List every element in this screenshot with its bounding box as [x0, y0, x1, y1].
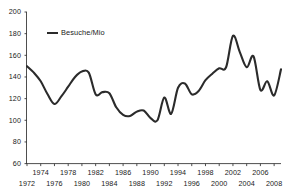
x-tick-label-1976: 1976 — [41, 180, 67, 187]
x-tick-label-1974: 1974 — [28, 169, 54, 176]
y-tick-label-140: 140 — [1, 73, 21, 80]
x-tick-label-1978: 1978 — [55, 169, 81, 176]
y-tick-label-200: 200 — [1, 8, 21, 15]
y-tick-label-100: 100 — [1, 117, 21, 124]
x-tick-label-1996: 1996 — [179, 180, 205, 187]
x-tick-label-2002: 2002 — [220, 169, 246, 176]
x-tick-label-1986: 1986 — [110, 169, 136, 176]
y-tick-label-120: 120 — [1, 95, 21, 102]
y-tick-label-80: 80 — [1, 138, 21, 145]
y-tick-label-160: 160 — [1, 52, 21, 59]
chart-container: 6080100120140160180200 19741978198219861… — [0, 0, 284, 196]
data-series-line-besuche-mio — [27, 36, 281, 122]
line-chart-plot — [0, 0, 284, 196]
y-tick-label-180: 180 — [1, 30, 21, 37]
x-tick-label-1988: 1988 — [124, 180, 150, 187]
x-tick-label-1998: 1998 — [192, 169, 218, 176]
chart-legend: Besuche/Mio — [47, 29, 105, 37]
legend-label: Besuche/Mio — [61, 29, 105, 37]
x-tick-label-1982: 1982 — [83, 169, 109, 176]
x-tick-label-1990: 1990 — [138, 169, 164, 176]
x-tick-label-1980: 1980 — [69, 180, 95, 187]
x-tick-label-1984: 1984 — [96, 180, 122, 187]
x-tick-label-2008: 2008 — [261, 180, 284, 187]
x-tick-label-1992: 1992 — [151, 180, 177, 187]
x-tick-label-2000: 2000 — [206, 180, 232, 187]
x-tick-label-2006: 2006 — [247, 169, 273, 176]
legend-line-swatch-icon — [47, 32, 58, 35]
x-tick-label-2004: 2004 — [234, 180, 260, 187]
x-tick-label-1972: 1972 — [14, 180, 40, 187]
y-tick-label-60: 60 — [1, 160, 21, 167]
x-tick-label-1994: 1994 — [165, 169, 191, 176]
